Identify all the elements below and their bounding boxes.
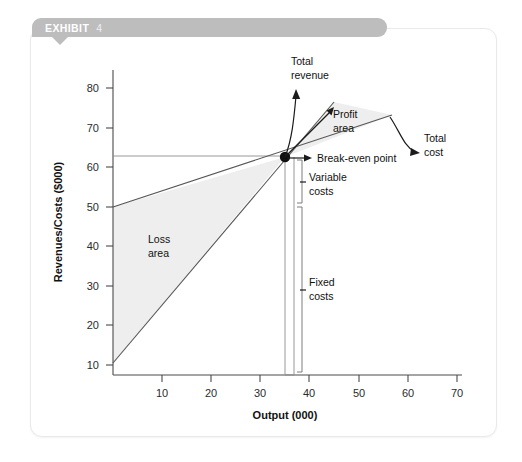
y-tick-label-70: 70	[87, 122, 99, 134]
variable-costs-label-line1: Variable	[309, 171, 347, 183]
total-revenue-label-line2: revenue	[291, 69, 329, 81]
total-cost-arrowhead	[410, 148, 420, 156]
total-revenue-label-line1: Total	[291, 55, 313, 67]
y-tick-label-20: 20	[87, 319, 99, 331]
y-tick-label-10: 10	[87, 359, 99, 371]
break-even-point-arrowhead	[304, 155, 312, 162]
y-tick-label-60: 60	[87, 161, 99, 173]
fixed-costs-label-line2: costs	[309, 290, 334, 302]
total-cost-label-line1: Total	[424, 132, 446, 144]
exhibit-banner-tail	[51, 36, 69, 45]
x-tick-label-40: 40	[303, 387, 315, 399]
exhibit-banner-number: 4	[96, 22, 102, 34]
total-revenue-arrowhead	[292, 89, 300, 99]
variable-costs-label-line2: costs	[309, 185, 334, 197]
loss-area-label-line2: area	[148, 247, 169, 259]
x-axis-tick-labels: 10 20 30 40 50 60 70	[156, 387, 463, 399]
x-tick-label-20: 20	[205, 387, 217, 399]
x-tick-label-10: 10	[156, 387, 168, 399]
y-axis-title: Revenues/Costs ($000)	[52, 161, 64, 282]
loss-area-label-line1: Loss	[148, 233, 170, 245]
exhibit-banner-label: EXHIBIT	[45, 22, 89, 34]
y-tick-label-40: 40	[87, 240, 99, 252]
x-tick-label-60: 60	[402, 387, 414, 399]
break-even-chart: 80 70 60 50 40 30 20 10 10 20 30 40 50 6…	[0, 0, 522, 462]
y-axis-tick-labels: 80 70 60 50 40 30 20 10	[87, 82, 99, 371]
y-tick-label-50: 50	[87, 201, 99, 213]
x-tick-label-50: 50	[353, 387, 365, 399]
x-tick-label-30: 30	[254, 387, 266, 399]
exhibit-banner: EXHIBIT 4	[32, 18, 387, 37]
profit-area-label-line1: Profit	[333, 108, 358, 120]
x-axis-ticks	[162, 375, 457, 382]
total-cost-arrow	[390, 117, 414, 151]
break-even-point-label: Break-even point	[317, 152, 396, 164]
y-tick-label-80: 80	[87, 82, 99, 94]
y-tick-label-30: 30	[87, 280, 99, 292]
x-axis-title: Output (000)	[253, 409, 318, 421]
total-cost-label-line2: cost	[424, 146, 443, 158]
fixed-costs-label-line1: Fixed	[309, 276, 335, 288]
x-tick-label-70: 70	[451, 387, 463, 399]
y-axis-ticks	[106, 88, 113, 365]
profit-area-label-line2: area	[333, 122, 354, 134]
